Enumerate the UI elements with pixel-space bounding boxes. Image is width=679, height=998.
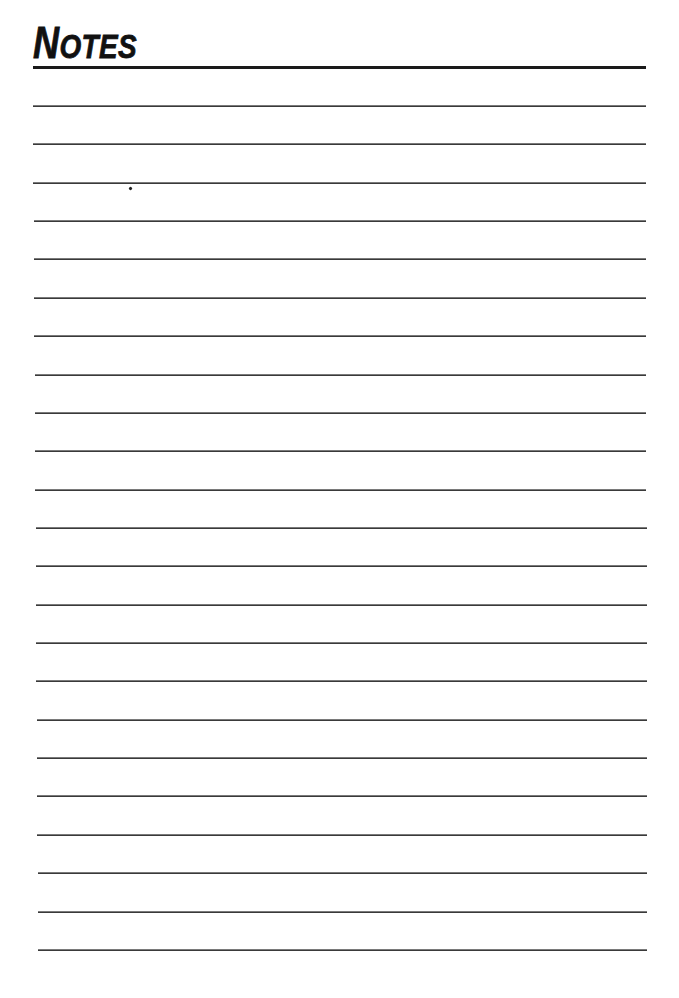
ruled-line <box>38 911 647 913</box>
scan-speck <box>128 186 132 190</box>
ruled-line <box>37 834 647 836</box>
ruled-line <box>36 604 647 606</box>
page-title-rest: otes <box>59 27 137 65</box>
ruled-line <box>33 182 646 184</box>
ruled-line <box>37 795 647 797</box>
ruled-line <box>35 374 647 376</box>
ruled-line <box>35 412 647 414</box>
ruled-line <box>33 105 646 107</box>
ruled-line <box>34 220 646 222</box>
ruled-line <box>34 297 646 299</box>
page-title-initial: N <box>33 18 59 67</box>
ruled-line <box>35 489 646 491</box>
header-rule <box>33 66 646 69</box>
ruled-line <box>38 949 647 951</box>
ruled-line <box>38 872 647 874</box>
ruled-line <box>36 680 646 682</box>
ruled-line <box>35 450 646 452</box>
ruled-line <box>33 143 646 145</box>
ruled-line <box>36 565 647 567</box>
ruled-line <box>34 335 646 337</box>
notes-page: Notes <box>0 0 679 998</box>
ruled-line <box>37 757 647 759</box>
ruled-line <box>36 642 646 644</box>
page-title: Notes <box>33 20 137 69</box>
ruled-line <box>34 258 646 260</box>
ruled-line <box>37 719 647 721</box>
ruled-line <box>36 527 647 529</box>
